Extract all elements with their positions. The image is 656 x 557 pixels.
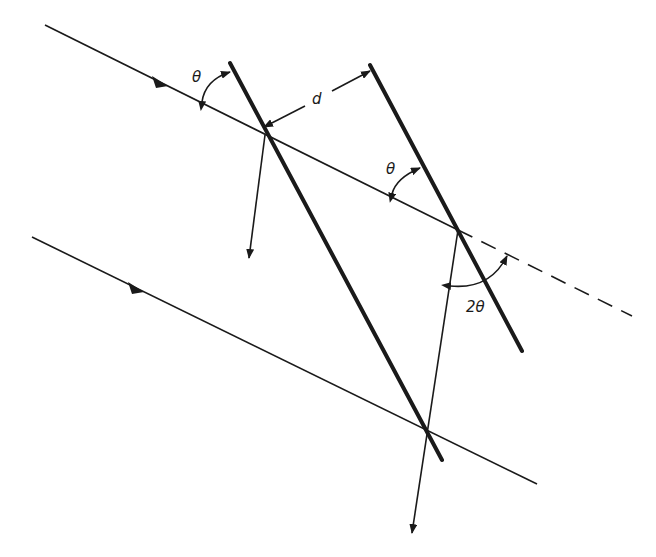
theta-angle-arc-middle	[392, 168, 420, 194]
two-theta-label: 2θ	[466, 298, 485, 316]
arrow-icon	[128, 282, 144, 294]
upper-incident-ray	[45, 25, 458, 230]
bragg-diagram: θ d θ 2θ	[0, 0, 656, 557]
spacing-label: d	[312, 90, 322, 108]
lower-incident-ray	[32, 237, 537, 484]
spacing-arrow-right	[332, 71, 370, 91]
spacing-arrow-left	[264, 106, 305, 127]
lattice-plane-1	[230, 63, 442, 460]
reflected-ray-2	[412, 230, 458, 533]
theta-angle-arc-upper	[202, 72, 230, 102]
reflected-ray-1	[249, 135, 265, 258]
theta-label-middle: θ	[386, 160, 395, 178]
arrow-icon	[152, 76, 168, 88]
theta-label-upper: θ	[192, 68, 201, 86]
